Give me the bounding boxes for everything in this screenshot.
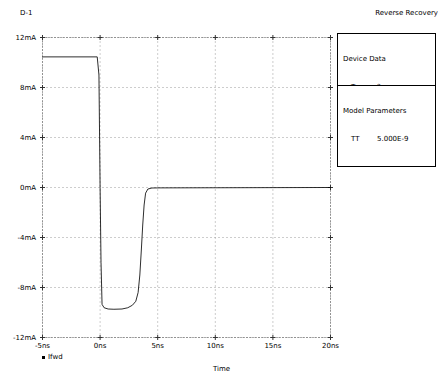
y-tick-label: 4mA xyxy=(2,134,36,142)
y-tick-label: -12mA xyxy=(2,334,36,342)
trace-layer xyxy=(43,57,331,309)
param-row: TT5.000E-9 xyxy=(343,135,431,144)
model-parameters-title: Model Parameters xyxy=(343,107,431,116)
x-axis-title: Time xyxy=(0,365,443,373)
x-tick-label: 10ns xyxy=(195,342,235,350)
series-marker-icon xyxy=(42,356,45,359)
param-key: TT xyxy=(351,135,377,144)
param-value: 5.000E-9 xyxy=(377,135,408,143)
series-legend-label: Ifwd xyxy=(48,353,63,362)
trace-ifwd xyxy=(43,57,331,309)
x-tick-label: -5ns xyxy=(23,342,63,350)
x-tick-label: 20ns xyxy=(311,342,351,350)
y-tick-label: -8mA xyxy=(2,284,36,292)
device-data-title: Device Data xyxy=(343,55,431,64)
x-tick-label: 15ns xyxy=(253,342,293,350)
reverse-recovery-plot-window: D-1 Reverse Recovery 12mA8mA4mA0mA-4mA-8… xyxy=(0,0,443,383)
y-tick-label: 8mA xyxy=(2,84,36,92)
series-legend[interactable]: Ifwd xyxy=(42,353,63,362)
x-tick-label: 0ns xyxy=(80,342,120,350)
y-tick-label: 12mA xyxy=(2,34,36,42)
model-parameters-panel: Model Parameters TT5.000E-9 xyxy=(337,85,436,167)
y-tick-label: -4mA xyxy=(2,234,36,242)
y-tick-label: 0mA xyxy=(2,184,36,192)
x-tick-label: 5ns xyxy=(138,342,178,350)
